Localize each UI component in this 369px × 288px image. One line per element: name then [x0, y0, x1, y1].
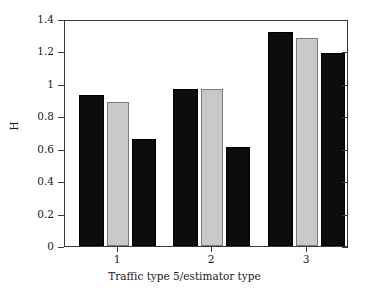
- y-axis-tick-mark: [58, 247, 64, 248]
- x-axis-tick-label: 2: [191, 253, 231, 265]
- y-axis-tick-mark-right: [342, 247, 348, 248]
- y-axis-tick-mark-right: [342, 117, 348, 118]
- bars-layer: [65, 21, 347, 246]
- y-axis-tick-label: 0.8: [0, 110, 54, 122]
- y-axis-tick-mark: [58, 150, 64, 151]
- y-axis-tick-label: 1.4: [0, 13, 54, 25]
- plot-area: [64, 20, 348, 247]
- y-axis-tick-mark: [58, 182, 64, 183]
- y-axis-tick-mark-right: [342, 215, 348, 216]
- y-axis-tick-mark: [58, 215, 64, 216]
- y-axis-tick-mark: [58, 52, 64, 53]
- bar: [173, 89, 198, 246]
- x-axis-tick-mark: [117, 247, 118, 252]
- bar: [132, 139, 156, 246]
- y-axis-tick-label: 1.2: [0, 45, 54, 57]
- bar: [107, 102, 129, 246]
- chart-figure: H Traffic type 5/estimator type 1.41.210…: [0, 0, 369, 288]
- y-axis-tick-mark-right: [342, 150, 348, 151]
- x-axis-tick-label: 1: [97, 253, 137, 265]
- y-axis-tick-label: 0.6: [0, 143, 54, 155]
- y-axis-tick-label: 0: [0, 240, 54, 252]
- x-axis-tick-mark: [306, 247, 307, 252]
- bar: [79, 95, 104, 246]
- y-axis-tick-mark-right: [342, 20, 348, 21]
- y-axis-tick-mark: [58, 20, 64, 21]
- y-axis-tick-mark: [58, 117, 64, 118]
- y-axis-tick-mark-right: [342, 85, 348, 86]
- y-axis-title: H: [8, 121, 20, 130]
- y-axis-tick-label: 0.2: [0, 208, 54, 220]
- bar: [296, 38, 318, 246]
- bar: [268, 32, 293, 246]
- x-axis-title: Traffic type 5/estimator type: [0, 270, 369, 282]
- bar: [226, 147, 250, 246]
- x-axis-tick-label: 3: [286, 253, 326, 265]
- y-axis-tick-mark-right: [342, 52, 348, 53]
- y-axis-tick-label: 0.4: [0, 175, 54, 187]
- y-axis-tick-mark-right: [342, 182, 348, 183]
- y-axis-tick-mark: [58, 85, 64, 86]
- x-axis-tick-mark: [211, 247, 212, 252]
- bar: [201, 89, 223, 246]
- y-axis-tick-label: 1: [0, 78, 54, 90]
